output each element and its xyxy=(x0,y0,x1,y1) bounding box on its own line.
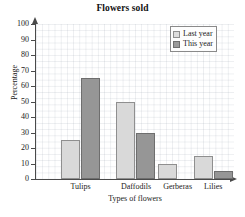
y-axis-tick xyxy=(31,179,36,180)
bar xyxy=(214,171,233,179)
y-axis-arrow-icon xyxy=(32,17,38,24)
x-axis-title: Types of flowers xyxy=(36,194,234,203)
y-axis-title: Percentage xyxy=(10,43,19,123)
y-axis-tick-label: 10 xyxy=(5,160,29,168)
legend-entry: This year xyxy=(173,39,213,49)
bar xyxy=(116,102,135,180)
x-axis-category-label: Tulips xyxy=(51,182,111,191)
legend-entry: Last year xyxy=(173,29,213,39)
legend-entry-label: Last year xyxy=(183,30,213,38)
bar-chart: Flowers sold 1009080706050403020100 Perc… xyxy=(0,0,245,217)
chart-legend: Last yearThis year xyxy=(170,26,217,52)
y-axis-tick-label: 30 xyxy=(5,129,29,137)
legend-swatch-icon xyxy=(173,41,180,48)
x-axis-category-label: Lilies xyxy=(183,182,243,191)
bar xyxy=(81,78,100,179)
bar xyxy=(61,140,80,179)
chart-title: Flowers sold xyxy=(0,3,245,13)
x-axis-line xyxy=(35,179,231,180)
bar xyxy=(136,133,155,180)
y-axis-tick-label: 100 xyxy=(5,20,29,28)
y-axis-tick-label: 20 xyxy=(5,144,29,152)
bar xyxy=(158,164,177,180)
legend-entry-label: This year xyxy=(183,40,213,48)
y-axis-tick-label: 0 xyxy=(5,175,29,183)
bar xyxy=(194,156,213,179)
legend-swatch-icon xyxy=(173,31,180,38)
